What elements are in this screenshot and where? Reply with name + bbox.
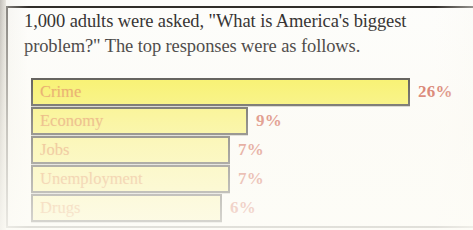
bar: Economy bbox=[31, 107, 248, 135]
bar-label: Crime bbox=[33, 83, 81, 101]
bar-chart: Crime26%Economy9%Jobs7%Unemployment7%Dru… bbox=[0, 0, 473, 230]
bar-value-label: 9% bbox=[256, 111, 282, 131]
bar-value-label: 6% bbox=[230, 198, 256, 218]
bar: Jobs bbox=[31, 136, 230, 164]
bar: Crime bbox=[31, 78, 410, 106]
bar-label: Unemployment bbox=[33, 170, 143, 188]
bar-value-label: 7% bbox=[238, 140, 264, 160]
bar-label: Drugs bbox=[33, 199, 80, 217]
scanned-bar-chart-figure: 1,000 adults were asked, "What is Americ… bbox=[0, 0, 473, 230]
bar-value-label: 7% bbox=[238, 169, 264, 189]
bar-label: Jobs bbox=[33, 141, 69, 159]
bar-value-label: 26% bbox=[418, 82, 453, 102]
bar: Drugs bbox=[31, 194, 222, 222]
bar-row: Crime26% bbox=[31, 78, 453, 106]
bar: Unemployment bbox=[31, 165, 230, 193]
bar-row: Jobs7% bbox=[31, 136, 264, 164]
bar-label: Economy bbox=[33, 112, 103, 130]
bar-row: Economy9% bbox=[31, 107, 282, 135]
bar-row: Unemployment7% bbox=[31, 165, 264, 193]
bar-row: Drugs6% bbox=[31, 194, 256, 222]
